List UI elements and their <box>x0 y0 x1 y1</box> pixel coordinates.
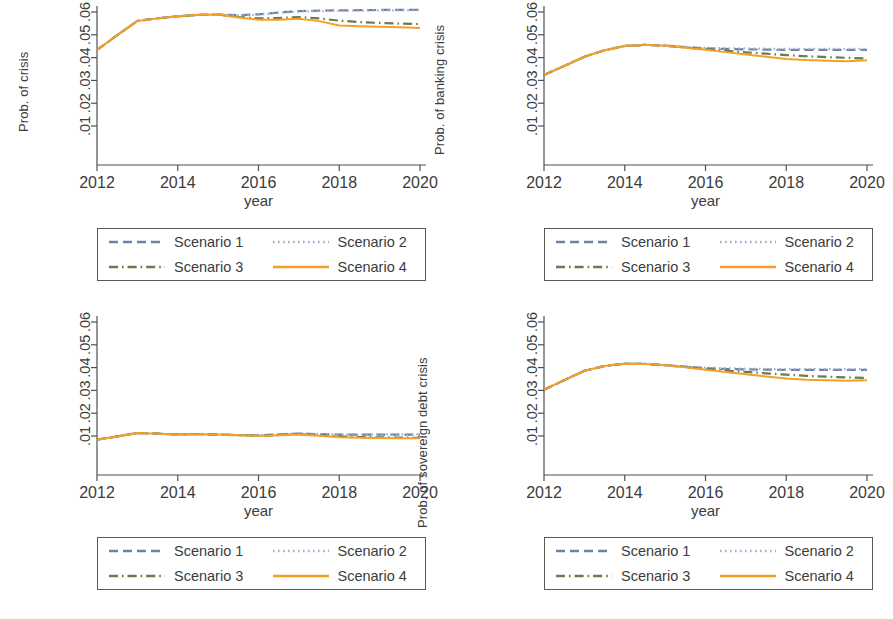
legend-line-scenario-4 <box>719 260 777 274</box>
x-axis-title: year <box>244 502 273 519</box>
legend-label-scenario-2: Scenario 2 <box>338 234 407 250</box>
legend-item-scenario-3[interactable]: Scenario 3 <box>98 564 262 590</box>
legend-item-scenario-1[interactable]: Scenario 1 <box>545 538 709 564</box>
legend-top-right: Scenario 1 Scenario 2 Scenario 3 Scenari… <box>544 228 873 281</box>
legend-item-scenario-4[interactable]: Scenario 4 <box>262 255 426 281</box>
legend-item-scenario-3[interactable]: Scenario 3 <box>98 255 262 281</box>
legend-line-scenario-3 <box>108 569 166 583</box>
y-tick-label: .03 <box>524 70 540 90</box>
legend-item-scenario-2[interactable]: Scenario 2 <box>709 229 873 255</box>
legend-line-scenario-2 <box>272 235 330 249</box>
legend-item-scenario-4[interactable]: Scenario 4 <box>709 564 873 590</box>
legend-row: Scenario 1 Scenario 2 <box>545 538 872 564</box>
legend-line-scenario-4 <box>719 569 777 583</box>
x-tick-label: 2012 <box>79 484 115 501</box>
legend-item-scenario-2[interactable]: Scenario 2 <box>262 538 426 564</box>
legend-item-scenario-4[interactable]: Scenario 4 <box>709 255 873 281</box>
legend-row: Scenario 3 Scenario 4 <box>545 564 872 590</box>
legend-row: Scenario 3 Scenario 4 <box>98 255 425 281</box>
y-tick-label: .06 <box>77 2 93 22</box>
legend-line-scenario-3 <box>108 260 166 274</box>
x-tick-label: 2012 <box>79 174 115 191</box>
panel-bottom-left: .01.02.03.04.05.0620122014201620182020ye… <box>0 310 447 619</box>
y-tick-label: .05 <box>77 335 93 355</box>
x-tick-label: 2020 <box>849 174 885 191</box>
legend-row: Scenario 3 Scenario 4 <box>545 255 872 281</box>
axis-title-prob-of-crisis: Prob. of crisis <box>16 52 31 132</box>
y-tick-label: .02 <box>77 93 93 113</box>
y-tick-label: .04 <box>77 48 93 68</box>
x-tick-label: 2018 <box>768 174 804 191</box>
legend-row: Scenario 1 Scenario 2 <box>98 229 425 255</box>
legend-item-scenario-3[interactable]: Scenario 3 <box>545 255 709 281</box>
legend-item-scenario-2[interactable]: Scenario 2 <box>709 538 873 564</box>
y-tick-label: .02 <box>524 403 540 423</box>
y-tick-label: .06 <box>77 312 93 332</box>
legend-line-scenario-1 <box>555 235 613 249</box>
x-tick-label: 2016 <box>241 484 277 501</box>
y-tick-label: .05 <box>524 335 540 355</box>
legend-label-scenario-3: Scenario 3 <box>621 568 690 584</box>
x-tick-label: 2018 <box>321 484 357 501</box>
y-tick-label: .03 <box>77 380 93 400</box>
x-tick-label: 2014 <box>160 174 196 191</box>
y-tick-label: .01 <box>524 426 540 446</box>
legend-item-scenario-1[interactable]: Scenario 1 <box>98 229 262 255</box>
y-tick-label: .04 <box>524 358 540 378</box>
legend-label-scenario-1: Scenario 1 <box>621 543 690 559</box>
legend-item-scenario-1[interactable]: Scenario 1 <box>545 229 709 255</box>
axis-title-prob-of-sovereign-debt-crisis: Prob. of sovereign debt crisis <box>415 357 430 528</box>
legend-line-scenario-1 <box>108 544 166 558</box>
x-tick-label: 2016 <box>688 484 724 501</box>
legend-row: Scenario 3 Scenario 4 <box>98 564 425 590</box>
panel-top-left: .01.02.03.04.05.0620122014201620182020ye… <box>0 0 447 310</box>
y-tick-label: .03 <box>524 380 540 400</box>
legend-line-scenario-2 <box>719 544 777 558</box>
legend-label-scenario-4: Scenario 4 <box>338 568 407 584</box>
legend-line-scenario-2 <box>719 235 777 249</box>
legend-item-scenario-3[interactable]: Scenario 3 <box>545 564 709 590</box>
legend-label-scenario-2: Scenario 2 <box>785 543 854 559</box>
x-axis-title: year <box>691 502 720 519</box>
legend-label-scenario-4: Scenario 4 <box>785 568 854 584</box>
multi-panel-line-chart-figure: .01.02.03.04.05.0620122014201620182020ye… <box>0 0 893 619</box>
legend-line-scenario-1 <box>108 235 166 249</box>
legend-label-scenario-2: Scenario 2 <box>785 234 854 250</box>
legend-label-scenario-1: Scenario 1 <box>621 234 690 250</box>
x-tick-label: 2018 <box>768 484 804 501</box>
legend-label-scenario-3: Scenario 3 <box>174 259 243 275</box>
legend-line-scenario-2 <box>272 544 330 558</box>
legend-label-scenario-2: Scenario 2 <box>338 543 407 559</box>
legend-item-scenario-1[interactable]: Scenario 1 <box>98 538 262 564</box>
legend-bottom-left: Scenario 1 Scenario 2 Scenario 3 Scenari… <box>97 537 426 590</box>
panel-bottom-right: .01.02.03.04.05.0620122014201620182020ye… <box>447 310 893 619</box>
legend-top-left: Scenario 1 Scenario 2 Scenario 3 Scenari… <box>97 228 426 281</box>
y-tick-label: .01 <box>524 116 540 136</box>
y-tick-label: .04 <box>77 358 93 378</box>
legend-label-scenario-1: Scenario 1 <box>174 234 243 250</box>
axis-title-prob-of-banking-crisis: Prob. of banking crisis <box>432 25 447 155</box>
series-line-scenario-2 <box>97 10 420 50</box>
legend-item-scenario-4[interactable]: Scenario 4 <box>262 564 426 590</box>
legend-row: Scenario 1 Scenario 2 <box>98 538 425 564</box>
y-tick-label: .05 <box>77 25 93 45</box>
series-line-scenario-4 <box>97 15 420 50</box>
legend-label-scenario-3: Scenario 3 <box>621 259 690 275</box>
x-tick-label: 2020 <box>402 174 438 191</box>
y-tick-label: .02 <box>77 403 93 423</box>
x-tick-label: 2020 <box>849 484 885 501</box>
y-tick-label: .02 <box>524 93 540 113</box>
legend-label-scenario-4: Scenario 4 <box>785 259 854 275</box>
x-axis-title: year <box>691 192 720 209</box>
legend-bottom-right: Scenario 1 Scenario 2 Scenario 3 Scenari… <box>544 537 873 590</box>
x-tick-label: 2016 <box>241 174 277 191</box>
legend-item-scenario-2[interactable]: Scenario 2 <box>262 229 426 255</box>
legend-row: Scenario 1 Scenario 2 <box>545 229 872 255</box>
y-tick-label: .01 <box>77 116 93 136</box>
panel-top-right: .01.02.03.04.05.0620122014201620182020ye… <box>447 0 893 310</box>
x-axis-title: year <box>244 192 273 209</box>
x-tick-label: 2014 <box>160 484 196 501</box>
y-tick-label: .04 <box>524 48 540 68</box>
legend-line-scenario-3 <box>555 260 613 274</box>
x-tick-label: 2012 <box>526 174 562 191</box>
